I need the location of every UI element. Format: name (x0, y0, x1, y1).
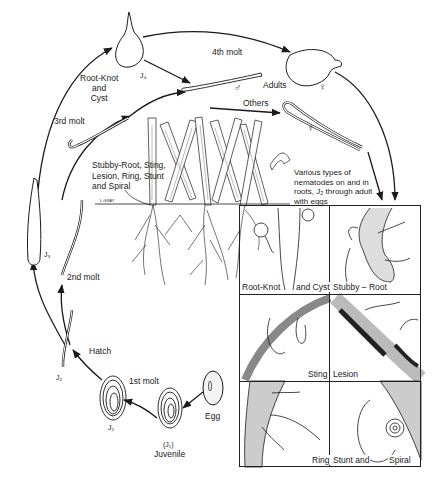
panel-label-spiral: Spiral (388, 455, 412, 465)
label-ecto-line-3: and Spiral (92, 181, 166, 192)
label-female-symbol-top: ♀ (319, 82, 327, 92)
label-various-line-3: roots, J₂ through adult (294, 187, 372, 197)
j4-body (116, 12, 144, 67)
label-various-line-2: nematodes on and in (294, 178, 372, 188)
panel-label-lesion: Lesion (332, 369, 359, 379)
arrow-2nd-molt-left (33, 262, 65, 345)
label-cyst: Cyst (80, 93, 118, 103)
j3-vermiform (62, 200, 82, 275)
label-female-symbol-mid: ♀ (307, 123, 315, 133)
label-adults: Adults (263, 80, 287, 90)
label-various-line-1: Various types of (294, 168, 372, 178)
label-j4: J₄ (140, 71, 146, 81)
male-worm (182, 73, 262, 91)
panel-label-stunt-and: Stunt and (332, 455, 370, 465)
grid-divider-vertical (329, 206, 330, 466)
j2-coiled (100, 376, 126, 420)
female-swollen-body (286, 50, 342, 86)
label-j3: J₃ (44, 250, 50, 260)
label-3rd-molt: 3rd molt (54, 116, 85, 126)
panel-label-sting: Sting (307, 369, 328, 379)
label-4th-molt: 4th molt (212, 47, 242, 57)
arrow-1st-molt (124, 400, 157, 418)
label-various-line-4: with eggs (294, 197, 372, 207)
label-male-symbol: ♂ (234, 83, 242, 93)
label-and: and (80, 83, 118, 93)
arrow-egg-j1 (183, 392, 203, 408)
label-ecto-line-2: Lesion, Ring, Stunt (92, 171, 166, 182)
label-soil-signature: L.GRAY (100, 196, 114, 206)
panel-label-stubby-root: Stubby – Root (332, 282, 388, 292)
arrow-2nd-molt-right (61, 285, 70, 345)
arrow-j4-male (144, 60, 190, 83)
arrow-others (210, 108, 280, 113)
label-hatch: Hatch (89, 346, 111, 356)
arrow-to-male-from-juv (130, 92, 185, 116)
panel-label-root-knot: Root-Knot (241, 282, 281, 292)
j1-coiled (158, 388, 182, 428)
panel-label-ring: Ring (311, 455, 330, 465)
label-1st-molt: 1st molt (129, 376, 159, 386)
panel-label-and-cyst: and Cyst (295, 282, 331, 292)
label-ecto-line-1: Stubby-Root, Sting, (92, 160, 166, 171)
label-juvenile: Juvenile (154, 449, 185, 459)
nematode-types-panel-grid: Root-Knot and Cyst Stubby – Root Sting L… (239, 205, 421, 467)
label-root-knot: Root-Knot (80, 73, 118, 83)
label-2nd-molt: 2nd molt (67, 272, 100, 282)
j3-body (27, 178, 40, 265)
grid-divider-horizontal-1 (240, 294, 420, 295)
label-ectoparasite-group: Stubby-Root, Sting, Lesion, Ring, Stunt … (92, 160, 166, 192)
label-root-knot-cyst: Root-Knot and Cyst (80, 73, 118, 103)
label-others: Others (243, 98, 269, 108)
label-egg: Egg (205, 411, 220, 421)
label-j2-hatched: J₂ (56, 373, 62, 383)
grid-divider-horizontal-2 (240, 381, 420, 382)
egg (203, 371, 223, 405)
label-various-types: Various types of nematodes on and in roo… (294, 168, 372, 206)
label-j2-in-egg: J₂ (108, 423, 114, 433)
